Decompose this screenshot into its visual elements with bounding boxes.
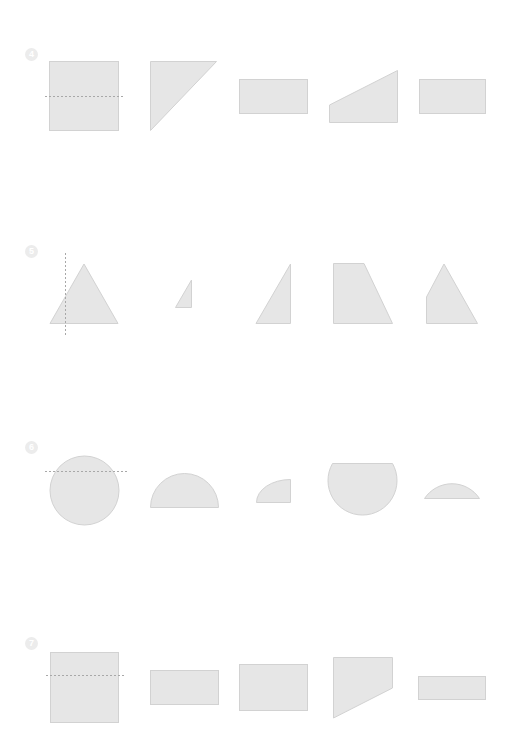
right-triangle bbox=[151, 62, 217, 131]
small-right-triangle bbox=[176, 280, 192, 308]
quarter-circle bbox=[257, 480, 291, 503]
rectangle bbox=[240, 80, 308, 114]
trapezoid bbox=[334, 658, 393, 719]
rectangle bbox=[419, 677, 486, 700]
right-trapezoid bbox=[334, 264, 393, 324]
major-circle-segment bbox=[328, 464, 397, 516]
square-with-fold-line bbox=[50, 62, 119, 131]
shapes-canvas bbox=[0, 0, 522, 755]
right-trapezoid bbox=[330, 71, 398, 123]
right-triangle bbox=[256, 264, 291, 324]
row-6 bbox=[45, 456, 480, 525]
row-5 bbox=[50, 253, 478, 335]
rectangle bbox=[240, 665, 308, 711]
semicircle bbox=[151, 474, 219, 508]
circle bbox=[50, 456, 119, 525]
row-7 bbox=[46, 653, 486, 723]
square-with-fold-line bbox=[51, 653, 119, 723]
rectangle bbox=[151, 671, 219, 705]
minor-circle-segment bbox=[425, 484, 480, 499]
rectangle bbox=[420, 80, 486, 114]
pentagon bbox=[427, 264, 478, 324]
row-4 bbox=[45, 62, 486, 131]
isosceles-triangle bbox=[50, 264, 118, 324]
